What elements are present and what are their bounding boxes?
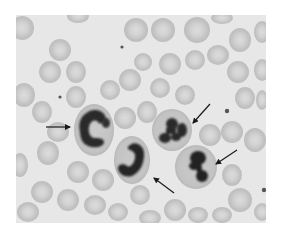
neutrophil-1: [74, 104, 114, 156]
nucleus-lobe: [159, 133, 171, 143]
neutrophil-3: [152, 109, 192, 151]
blood-smear-micrograph: [0, 0, 282, 245]
neutrophil-2: [114, 136, 150, 184]
neutrophil-4: [175, 145, 217, 189]
